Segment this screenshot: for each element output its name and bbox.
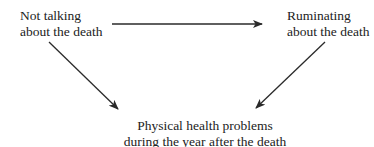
node-ruminating-line2: about the death	[287, 24, 369, 40]
node-physical-health-line1: Physical health problems	[107, 118, 303, 134]
node-ruminating: Ruminating about the death	[287, 8, 369, 40]
node-physical-health-line2: during the year after the death	[107, 134, 303, 147]
node-not-talking-line2: about the death	[20, 24, 102, 40]
node-ruminating-line1: Ruminating	[287, 8, 369, 24]
node-not-talking: Not talking about the death	[20, 8, 102, 40]
arrow-not-talking-to-physical-health	[49, 42, 118, 109]
node-physical-health: Physical health problems during the year…	[107, 118, 303, 147]
node-not-talking-line1: Not talking	[20, 8, 102, 24]
arrow-ruminating-to-physical-health	[256, 42, 325, 108]
